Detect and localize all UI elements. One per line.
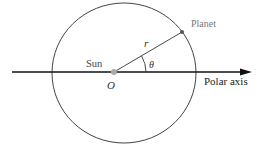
orbit-diagram: Planet Sun r θ O Polar axis: [0, 0, 267, 150]
sun-label: Sun: [86, 59, 102, 70]
planet-label: Planet: [191, 19, 216, 29]
sun-dot: [111, 69, 117, 75]
planet-dot: [180, 30, 184, 34]
polar-axis-label: Polar axis: [204, 76, 248, 87]
angle-arc: [142, 56, 146, 72]
origin-label: O: [107, 80, 115, 91]
radius-label: r: [144, 38, 148, 49]
angle-label: θ: [149, 60, 154, 70]
orbit-ellipse: [52, 3, 196, 143]
